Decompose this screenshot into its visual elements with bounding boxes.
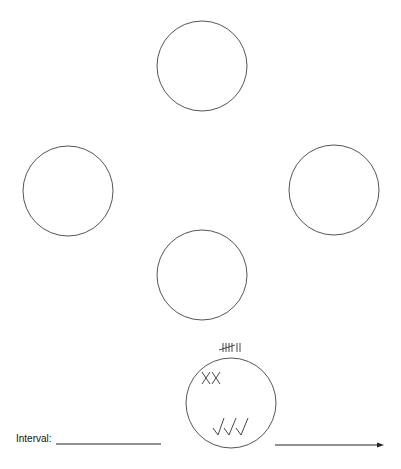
circle-top — [157, 21, 247, 111]
time-arrow — [275, 443, 384, 448]
check-marks — [213, 418, 248, 435]
circle-bottom — [186, 358, 276, 448]
interval-label: Interval: — [16, 433, 52, 444]
diagram-canvas — [0, 0, 401, 469]
circle-middle — [157, 230, 247, 320]
tally-marks — [219, 343, 240, 352]
circle-left — [23, 146, 113, 236]
x-marks — [202, 372, 220, 384]
circle-right — [289, 145, 379, 235]
